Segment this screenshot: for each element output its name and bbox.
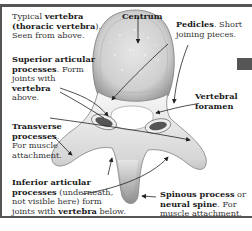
next-arrow-icon bbox=[237, 58, 252, 70]
label-superior-articular: Superior articular processes. Form joint… bbox=[12, 55, 95, 103]
label-pedicles: Pedicles. Short joining pieces. bbox=[176, 20, 242, 39]
label-typical-vertebra: Typical vertebra (thoracic vertebra). Se… bbox=[12, 12, 101, 41]
label-transverse-processes: Transverse processes. For muscle attachm… bbox=[12, 122, 62, 160]
label-inferior-articular: Inferior articular processes (underneath… bbox=[12, 178, 126, 216]
label-spinous-process: Spinous process or neural spine. For mus… bbox=[160, 190, 246, 219]
label-centrum: Centrum bbox=[122, 12, 162, 22]
label-vertebral-foramen: Vertebral foramen bbox=[195, 92, 238, 111]
centrum-shape bbox=[93, 10, 175, 102]
